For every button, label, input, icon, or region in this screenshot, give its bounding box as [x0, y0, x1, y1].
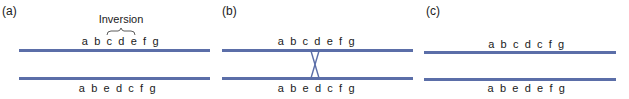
panel-a-bottom-chromosome [19, 77, 210, 80]
panel-a: (a) Inversion a b c d e f g a b e d c f … [0, 0, 210, 99]
panel-c-bottom-sequence: a b e d e f g [488, 82, 567, 94]
panel-b: (b) a b c d e f g a b e d c f g [210, 0, 420, 99]
panel-c-bottom-chromosome [424, 78, 616, 81]
panel-c-top-sequence: a b c d c f g [488, 38, 566, 50]
panel-b-bottom-sequence: a b e d c f g [278, 82, 356, 94]
panel-c: (c) a b c d c f g a b e d e f g [419, 0, 629, 99]
panel-a-top-sequence: a b c d e f g [82, 35, 160, 47]
panel-c-top-chromosome [424, 51, 616, 54]
panel-a-top-chromosome [19, 49, 210, 52]
panel-a-bottom-sequence: a b e d c f g [79, 82, 157, 94]
panel-c-label: (c) [426, 4, 440, 18]
